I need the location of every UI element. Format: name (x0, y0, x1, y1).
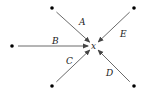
edge-d (98, 50, 130, 82)
node-e (132, 6, 136, 10)
edge-label-a: A (78, 17, 86, 27)
node-d (132, 84, 136, 88)
edge-label-e: E (119, 29, 127, 39)
edge-label-c: C (66, 56, 73, 66)
node-b (10, 44, 14, 48)
center-label-x: x (91, 41, 96, 51)
edge-c (56, 50, 89, 82)
diagram-canvas: AEBCD x (0, 0, 143, 93)
diagram: AEBCD x (0, 0, 143, 93)
node-a (50, 6, 54, 10)
edge-label-d: D (105, 68, 113, 78)
edge-label-b: B (51, 36, 59, 46)
node-c (50, 84, 54, 88)
